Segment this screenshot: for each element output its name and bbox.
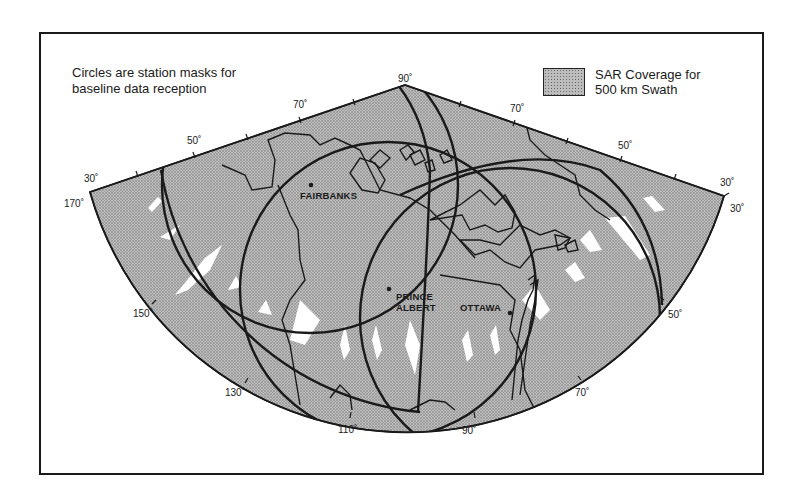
lon-label-50: 50˚: [668, 309, 682, 320]
polar-map: 90˚ 70˚ 50˚ 30˚ 70˚ 50˚ 30˚ 170˚ 150˚ 13…: [0, 0, 801, 495]
lon-label-150: 150˚: [133, 308, 153, 319]
lon-label-30: 30˚: [730, 203, 744, 214]
lon-label-130: 130˚: [225, 387, 245, 398]
lon-label-70: 70˚: [575, 387, 589, 398]
station-label-line2: ALBERT: [396, 302, 436, 313]
lat-label-30-left: 30˚: [84, 173, 98, 184]
station-marker-icon: [309, 183, 314, 188]
lat-label-90: 90˚: [398, 73, 412, 84]
lon-label-170: 170˚: [64, 198, 84, 209]
lat-label-50-right: 50˚: [618, 140, 632, 151]
lat-label-50-left: 50˚: [187, 135, 201, 146]
station-label: FAIRBANKS: [300, 190, 357, 201]
lon-label-110: 110˚: [338, 424, 357, 435]
lat-label-70-left: 70˚: [293, 99, 307, 110]
lon-label-90: 90˚: [462, 425, 476, 436]
station-label-line1: PRINCE: [396, 291, 433, 302]
station-marker-icon: [387, 287, 392, 292]
station-marker-icon: [508, 311, 513, 316]
coverage-region: [90, 85, 724, 432]
station-label: OTTAWA: [460, 302, 501, 313]
lat-label-30-right: 30˚: [720, 177, 734, 188]
lat-label-70-right: 70˚: [510, 103, 524, 114]
